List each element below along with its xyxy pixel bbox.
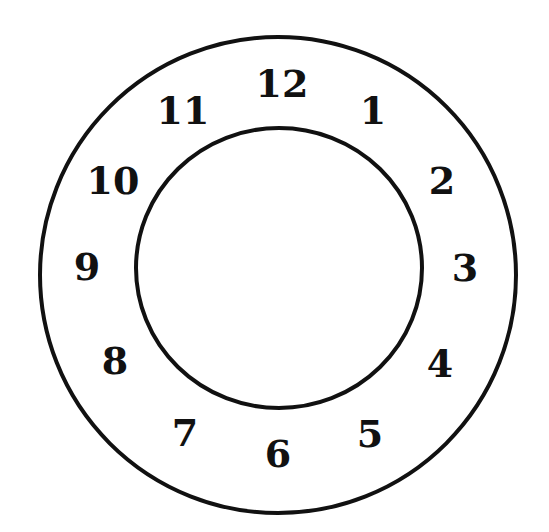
numeral-5: 5 [357, 411, 383, 456]
numeral-6: 6 [265, 431, 291, 476]
numeral-10: 10 [87, 158, 140, 203]
inner-ring [136, 128, 422, 408]
numeral-12: 12 [256, 61, 309, 106]
clock-face: 12 1 2 3 4 5 6 7 8 9 10 11 [0, 0, 549, 532]
numeral-1: 1 [360, 88, 386, 133]
numeral-7: 7 [172, 410, 198, 455]
numeral-4: 4 [427, 341, 453, 386]
numeral-9: 9 [74, 244, 100, 289]
numeral-8: 8 [102, 338, 128, 383]
numeral-2: 2 [429, 158, 455, 203]
numeral-11: 11 [157, 88, 210, 133]
numeral-3: 3 [452, 245, 478, 290]
